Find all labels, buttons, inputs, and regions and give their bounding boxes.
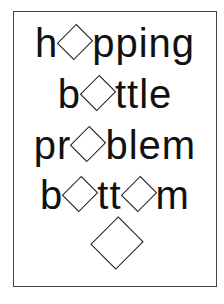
letters: tt: [97, 173, 121, 217]
word-line-1: hpping: [14, 20, 216, 66]
puzzle-card: hpping bttle prblem bttm: [13, 11, 217, 287]
letters: blem: [105, 123, 196, 167]
letters: m: [156, 173, 190, 217]
letters: pping: [92, 21, 195, 65]
letters: h: [35, 21, 58, 65]
letters: pr: [34, 123, 72, 167]
letters: b: [58, 72, 81, 116]
letters: b: [40, 173, 63, 217]
diamond-icon: [120, 176, 156, 212]
letters: ttle: [115, 72, 172, 116]
large-diamond-icon: [90, 216, 143, 269]
diamond-icon: [80, 75, 116, 111]
diamond-icon: [62, 176, 98, 212]
word-line-2: bttle: [14, 71, 216, 117]
diamond-icon: [70, 126, 106, 162]
word-line-4: bttm: [14, 172, 216, 218]
diamond-icon: [57, 24, 93, 60]
word-line-3: prblem: [14, 122, 216, 168]
